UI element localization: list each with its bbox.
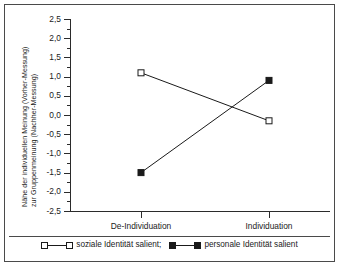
legend-label: soziale Identität salient; (76, 240, 161, 250)
data-point-marker (266, 77, 272, 83)
filled-square-icon (169, 241, 201, 250)
data-point-marker (138, 170, 144, 176)
series-layer (0, 0, 339, 266)
data-point-marker (138, 70, 144, 76)
series-line-2 (141, 80, 269, 172)
plot-area: 2,52,01,51,00,50,0-0,5-1,0-1,5-2,0-2,5 D… (0, 0, 339, 266)
open-square-icon (41, 241, 73, 250)
chart-legend: soziale Identität salient;personale Iden… (9, 240, 330, 250)
legend-entry[interactable]: personale Identität salient (169, 240, 297, 250)
chart-figure: Nähe der individuellen Meinung (Vorher-M… (0, 0, 339, 266)
data-point-marker (266, 118, 272, 124)
legend-label: personale Identität salient (204, 240, 297, 250)
legend-separator (9, 236, 330, 237)
legend-entry[interactable]: soziale Identität salient; (41, 240, 161, 250)
series-line-1 (141, 73, 269, 121)
